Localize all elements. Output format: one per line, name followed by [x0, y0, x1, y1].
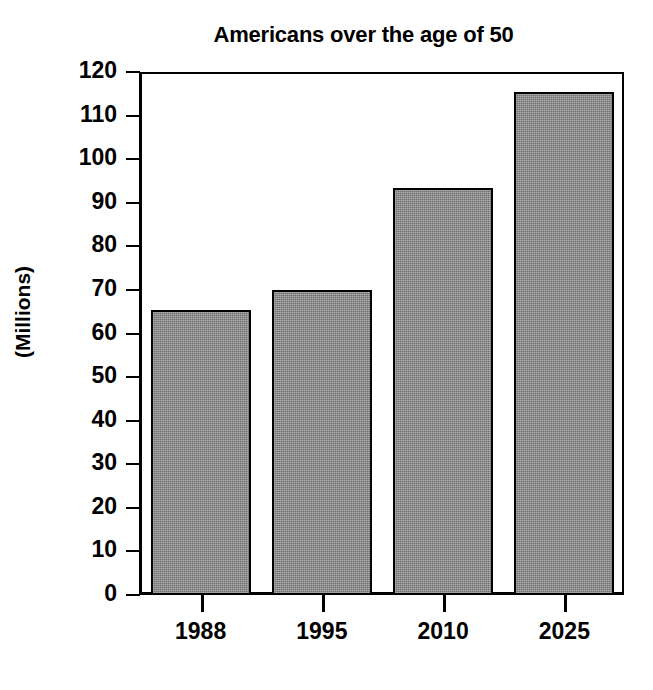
y-tick-label-100: 100: [55, 144, 117, 171]
y-tick-label-60: 60: [55, 319, 117, 346]
y-tick-label-50: 50: [55, 362, 117, 389]
x-tick-1988: [201, 595, 204, 612]
y-tick-label-80: 80: [55, 231, 117, 258]
y-tick-label-120: 120: [55, 57, 117, 84]
x-tick-label-2010: 2010: [383, 618, 503, 645]
y-tick-10: [126, 550, 140, 552]
y-tick-label-10: 10: [55, 536, 117, 563]
bar-2025: [514, 92, 614, 595]
plot-area: [139, 72, 624, 595]
y-tick-60: [126, 333, 140, 335]
y-tick-0: [126, 594, 140, 596]
y-tick-110: [126, 115, 140, 117]
y-tick-label-20: 20: [55, 493, 117, 520]
y-tick-100: [126, 158, 140, 160]
y-axis-label: (Millions): [11, 242, 35, 382]
bar-1995: [272, 290, 372, 595]
y-tick-50: [126, 376, 140, 378]
bar-chart: Americans over the age of 50 (Millions) …: [0, 0, 653, 690]
x-tick-label-1995: 1995: [262, 618, 382, 645]
x-tick-2025: [564, 595, 567, 612]
y-tick-label-110: 110: [55, 101, 117, 128]
y-tick-40: [126, 420, 140, 422]
bar-2010: [393, 188, 493, 596]
y-tick-80: [126, 245, 140, 247]
x-tick-2010: [443, 595, 446, 612]
x-tick-label-2025: 2025: [504, 618, 624, 645]
y-tick-30: [126, 463, 140, 465]
y-tick-90: [126, 202, 140, 204]
y-tick-20: [126, 507, 140, 509]
y-tick-70: [126, 289, 140, 291]
chart-title: Americans over the age of 50: [0, 22, 653, 48]
y-tick-120: [126, 71, 140, 73]
y-tick-label-70: 70: [55, 275, 117, 302]
y-tick-label-40: 40: [55, 406, 117, 433]
y-tick-label-90: 90: [55, 188, 117, 215]
x-tick-1995: [322, 595, 325, 612]
y-tick-label-0: 0: [55, 580, 117, 607]
x-tick-label-1988: 1988: [141, 618, 261, 645]
y-tick-label-30: 30: [55, 449, 117, 476]
bar-1988: [151, 310, 251, 595]
